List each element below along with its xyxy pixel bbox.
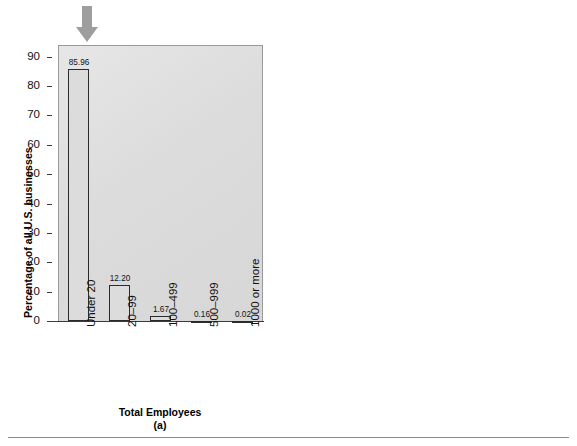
y-axis-tick-label: 50 bbox=[16, 167, 40, 179]
x-axis-tick-label: 500–999 bbox=[208, 282, 220, 327]
y-axis-tick-label: 90 bbox=[16, 50, 40, 62]
y-axis-tick bbox=[47, 292, 52, 293]
arrow-shaft bbox=[82, 6, 92, 28]
y-axis-tick-label: 40 bbox=[16, 197, 40, 209]
y-axis-tick-label: 60 bbox=[16, 138, 40, 150]
y-axis-tick bbox=[47, 321, 52, 322]
y-axis-tick-label: 20 bbox=[16, 255, 40, 267]
y-axis-tick-label: 0 bbox=[16, 314, 40, 326]
x-axis-tick-label: 20–99 bbox=[126, 295, 138, 327]
y-axis-tick bbox=[47, 174, 52, 175]
y-axis-tick-label: 10 bbox=[16, 285, 40, 297]
y-axis-tick bbox=[47, 57, 52, 58]
bar-value-label: 85.96 bbox=[55, 58, 103, 67]
y-axis-tick bbox=[47, 262, 52, 263]
panel-label-a: (a) bbox=[60, 419, 260, 431]
figure: Percentage of all U.S. businesses 010203… bbox=[0, 0, 577, 446]
y-axis-tick bbox=[47, 204, 52, 205]
y-axis-tick bbox=[47, 115, 52, 116]
down-arrow-icon-a bbox=[74, 6, 100, 42]
bar-value-label: 12.20 bbox=[96, 274, 144, 283]
chart-panel-a: Percentage of all U.S. businesses 010203… bbox=[0, 0, 290, 446]
footer-divider bbox=[8, 437, 569, 438]
chart-panel-b: Percentage of all U.S. Workers 010203040… bbox=[290, 0, 577, 446]
arrow-head bbox=[76, 27, 98, 42]
y-axis-tick-label: 70 bbox=[16, 108, 40, 120]
y-axis-tick-label: 30 bbox=[16, 226, 40, 238]
x-axis-tick-label: Under 20 bbox=[85, 280, 97, 327]
x-axis-title-a: Total Employees bbox=[60, 406, 260, 418]
x-axis-tick-label: 1000 or more bbox=[249, 259, 261, 327]
y-axis-tick-label: 80 bbox=[16, 79, 40, 91]
y-axis-tick bbox=[47, 145, 52, 146]
y-axis-tick bbox=[47, 86, 52, 87]
x-axis-tick-label: 100–499 bbox=[167, 282, 179, 327]
y-axis-tick bbox=[47, 233, 52, 234]
